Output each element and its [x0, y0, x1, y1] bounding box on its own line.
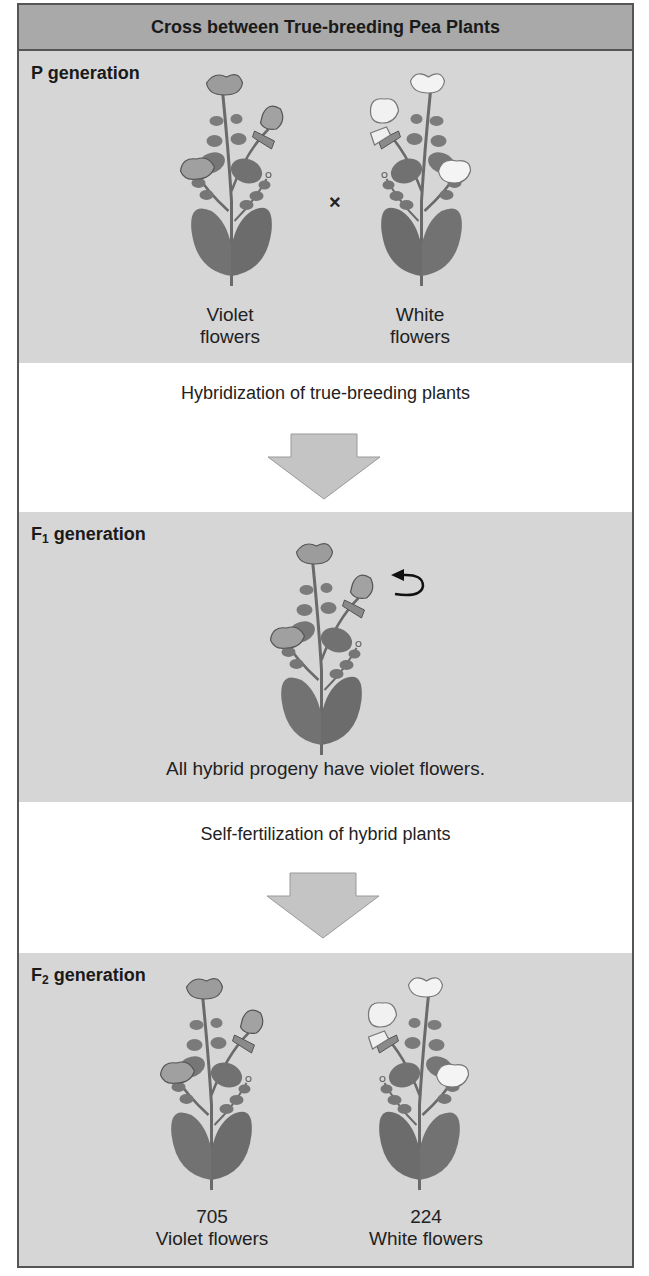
f2-white-result: 224 White flowers	[351, 1206, 501, 1250]
f2-generation-section: F2 generation 705 Violet flowers 224	[19, 953, 632, 1266]
p-generation-section: P generation × Violet flowers	[19, 51, 632, 363]
f1-violet-pea-plant-icon	[264, 540, 379, 760]
hybridization-text: Hybridization of true-breeding plants	[19, 383, 632, 404]
f2-white-pea-plant-icon	[362, 975, 477, 1195]
hybridization-step: Hybridization of true-breeding plants	[19, 363, 632, 512]
diagram-frame: Cross between True-breeding Pea Plants P…	[17, 3, 634, 1268]
down-arrow-icon	[266, 433, 382, 503]
f2-violet-caption: Violet flowers	[137, 1228, 287, 1250]
f2-white-caption: White flowers	[351, 1228, 501, 1250]
cross-symbol: ×	[329, 191, 341, 214]
self-fertilization-step: Self-fertilization of hybrid plants	[19, 802, 632, 953]
f2-violet-pea-plant-icon	[154, 975, 269, 1195]
f2-generation-label: F2 generation	[31, 965, 146, 987]
violet-pea-plant-icon	[174, 71, 289, 291]
white-pea-plant-icon	[364, 71, 479, 291]
diagram-title: Cross between True-breeding Pea Plants	[19, 5, 632, 51]
f1-generation-label: F1 generation	[31, 524, 146, 546]
f1-caption: All hybrid progeny have violet flowers.	[19, 758, 632, 780]
p-white-caption: White flowers	[364, 304, 476, 348]
p-generation-label: P generation	[31, 63, 140, 84]
down-arrow-icon	[265, 872, 381, 942]
f2-white-count: 224	[351, 1206, 501, 1228]
f2-violet-count: 705	[137, 1206, 287, 1228]
f2-violet-result: 705 Violet flowers	[137, 1206, 287, 1250]
self-fertilization-curved-arrow-icon	[387, 566, 427, 600]
f1-generation-section: F1 generation All hybrid progeny have vi…	[19, 512, 632, 802]
self-fertilization-text: Self-fertilization of hybrid plants	[19, 824, 632, 845]
p-violet-caption: Violet flowers	[174, 304, 286, 348]
